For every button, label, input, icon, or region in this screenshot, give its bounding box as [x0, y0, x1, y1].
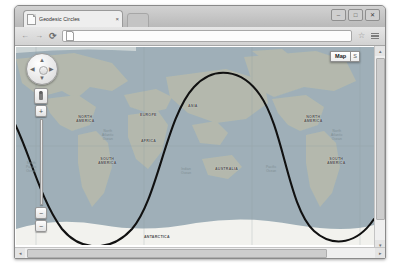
scroll-up-icon[interactable]: ▴: [375, 46, 385, 56]
map-graphic: [16, 47, 374, 245]
pan-left-icon[interactable]: ◀: [30, 66, 35, 72]
scroll-right-icon[interactable]: ▸: [375, 248, 385, 258]
horizontal-scrollbar[interactable]: ◂ ▸: [15, 247, 385, 258]
screenshot-root: Geodesic Circles × – □ ✕ ← → ⟳ ☆: [0, 0, 398, 267]
browser-toolbar: ← → ⟳ ☆: [15, 27, 385, 46]
vertical-scroll-thumb[interactable]: [376, 58, 385, 220]
back-icon[interactable]: ←: [20, 31, 30, 41]
map-canvas[interactable]: NORTH AMERICASOUTH AMERICAEUROPEAFRICAAS…: [16, 47, 374, 245]
map-label: EUROPE: [140, 113, 157, 117]
zoom-in-button[interactable]: +: [35, 105, 47, 117]
map-label: ANTARCTICA: [144, 235, 170, 239]
map-type-satellite-button[interactable]: S: [351, 51, 360, 62]
street-view-pegman-icon[interactable]: [34, 88, 48, 104]
map-label: NORTH AMERICA: [304, 115, 323, 124]
map-type-map-button[interactable]: Map: [330, 51, 351, 62]
zoom-slider[interactable]: [40, 119, 43, 205]
forward-icon[interactable]: →: [34, 31, 44, 41]
pan-center-button[interactable]: [39, 66, 48, 75]
tab-title: Geodesic Circles: [39, 16, 112, 22]
map-label: NORTH AMERICA: [76, 115, 95, 124]
pan-control[interactable]: ▲ ▼ ◀ ▶: [26, 53, 58, 85]
zoom-out-button[interactable]: −: [35, 220, 47, 232]
browser-window: Geodesic Circles × – □ ✕ ← → ⟳ ☆: [14, 5, 386, 259]
vertical-scrollbar[interactable]: ▴ ▾: [374, 46, 385, 250]
address-bar[interactable]: [62, 30, 352, 42]
map-label: AFRICA: [141, 139, 156, 143]
new-tab-button[interactable]: [127, 13, 149, 28]
page-info-icon: [66, 31, 74, 41]
tab-close-icon[interactable]: ×: [115, 16, 119, 22]
minimize-button[interactable]: –: [331, 9, 346, 21]
tab-strip: Geodesic Circles × – □ ✕: [15, 6, 385, 27]
zoom-slider-handle[interactable]: −: [35, 207, 47, 219]
horizontal-scroll-thumb[interactable]: [27, 249, 327, 258]
browser-tab[interactable]: Geodesic Circles ×: [23, 10, 123, 27]
window-buttons: – □ ✕: [331, 9, 380, 21]
page-viewport: NORTH AMERICASOUTH AMERICAEUROPEAFRICAAS…: [15, 46, 385, 258]
map-label: SOUTH AMERICA: [98, 157, 117, 166]
map-label: Pacific Ocean: [266, 165, 276, 173]
maximize-button[interactable]: □: [348, 9, 363, 21]
map-label: AUSTRALIA: [215, 167, 238, 171]
pan-up-icon[interactable]: ▲: [39, 57, 45, 63]
map-type-control: Map S: [330, 51, 360, 62]
map-label: North Atlantic Ocean: [102, 129, 114, 141]
map-label: SOUTH AMERICA: [327, 157, 346, 166]
map-label: North Atlantic Ocean: [331, 129, 343, 141]
hamburger-menu-icon[interactable]: [370, 31, 380, 41]
close-button[interactable]: ✕: [365, 9, 380, 21]
zoom-control: + − −: [33, 88, 49, 232]
pan-down-icon[interactable]: ▼: [39, 75, 45, 81]
bookmark-star-icon[interactable]: ☆: [356, 31, 366, 41]
scroll-left-icon[interactable]: ◂: [15, 248, 25, 258]
reload-icon[interactable]: ⟳: [48, 31, 58, 41]
map-label: ASIA: [188, 104, 198, 108]
tab-favicon-icon: [27, 14, 36, 25]
map-label: Indian Ocean: [181, 167, 191, 175]
pan-right-icon[interactable]: ▶: [49, 66, 54, 72]
